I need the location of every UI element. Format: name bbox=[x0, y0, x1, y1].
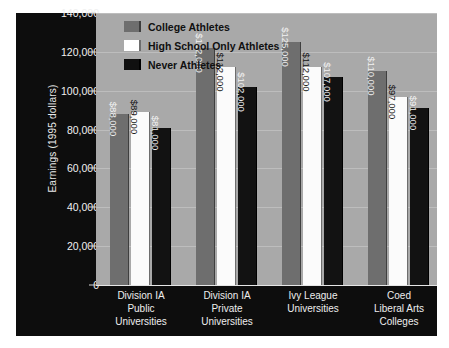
x-axis-category-label: Division IAPrivateUniversities bbox=[177, 289, 277, 328]
y-axis-tick-mark bbox=[89, 51, 96, 52]
y-axis-tick-mark bbox=[89, 246, 96, 247]
x-axis-category-line: Coed bbox=[349, 289, 449, 302]
x-axis-category-line: Universities bbox=[91, 315, 191, 328]
bar[interactable]: $125,000 bbox=[282, 42, 301, 285]
bar-value-label: $102,000 bbox=[236, 72, 247, 112]
legend-swatch-icon bbox=[124, 40, 141, 51]
x-axis-category-line: Ivy League bbox=[263, 289, 363, 302]
legend-label: High School Only Athletes bbox=[148, 40, 279, 52]
bar-value-label: $110,000 bbox=[366, 57, 377, 96]
x-axis-category-line: Universities bbox=[177, 315, 277, 328]
x-axis-category-line: Colleges bbox=[349, 315, 449, 328]
y-axis-title: Earnings (1995 dollars) bbox=[47, 59, 58, 219]
x-axis-category-line: Public bbox=[91, 302, 191, 315]
bar[interactable]: $97,000 bbox=[389, 97, 408, 285]
bar-group: $125,000$112,000$107,000 bbox=[282, 13, 344, 285]
bar[interactable]: $81,000 bbox=[152, 128, 171, 285]
y-axis-tick-mark bbox=[89, 168, 96, 169]
chart-panel: Earnings (1995 dollars) 140,000120,00010… bbox=[16, 13, 437, 336]
y-axis-tick-mark bbox=[89, 90, 96, 91]
bar-value-label: $112,000 bbox=[301, 53, 312, 92]
bar-value-label: $81,000 bbox=[150, 115, 161, 149]
x-axis-category-label: Ivy LeagueUniversities bbox=[263, 289, 363, 315]
y-axis-tick-mark bbox=[89, 13, 96, 14]
x-axis-baseline bbox=[96, 285, 437, 286]
legend-swatch-icon bbox=[124, 59, 141, 70]
bar[interactable]: $102,000 bbox=[238, 87, 257, 285]
bar[interactable]: $112,000 bbox=[217, 67, 236, 285]
x-axis-category-line: Liberal Arts bbox=[349, 302, 449, 315]
bar-value-label: $97,000 bbox=[387, 84, 398, 118]
y-axis-tick-mark bbox=[89, 285, 96, 286]
bar-value-label: $125,000 bbox=[280, 27, 291, 67]
legend-item[interactable]: Never Athletes bbox=[124, 55, 279, 74]
legend-item[interactable]: High School Only Athletes bbox=[124, 36, 279, 55]
bar[interactable]: $112,000 bbox=[303, 67, 322, 285]
plot-area: $88,000$89,000$81,000$122,000$112,000$10… bbox=[96, 13, 437, 285]
legend-swatch-icon bbox=[124, 21, 141, 32]
bar[interactable]: $107,000 bbox=[324, 77, 343, 285]
x-axis-category-label: Division IAPublicUniversities bbox=[91, 289, 191, 328]
x-axis-category-line: Division IA bbox=[177, 289, 277, 302]
bar-value-label: $88,000 bbox=[108, 102, 119, 136]
y-axis-tick-mark bbox=[89, 129, 96, 130]
chart-legend: College AthletesHigh School Only Athlete… bbox=[124, 17, 279, 74]
bar[interactable]: $91,000 bbox=[410, 108, 429, 285]
x-axis-category-line: Division IA bbox=[91, 289, 191, 302]
legend-label: College Athletes bbox=[148, 21, 230, 33]
bar-value-label: $91,000 bbox=[408, 96, 419, 130]
bar[interactable]: $89,000 bbox=[131, 112, 150, 285]
bar[interactable]: $88,000 bbox=[110, 114, 129, 285]
x-axis-labels: Division IAPublicUniversitiesDivision IA… bbox=[96, 287, 437, 335]
bar-value-label: $89,000 bbox=[129, 100, 140, 134]
x-axis-category-label: CoedLiberal ArtsColleges bbox=[349, 289, 449, 328]
bar-value-label: $107,000 bbox=[322, 62, 333, 102]
x-axis-category-line: Universities bbox=[263, 302, 363, 315]
x-axis-category-line: Private bbox=[177, 302, 277, 315]
legend-label: Never Athletes bbox=[148, 59, 221, 71]
y-axis-tick-mark bbox=[89, 207, 96, 208]
bar-group: $110,000$97,000$91,000 bbox=[368, 13, 430, 285]
bar[interactable]: $110,000 bbox=[368, 71, 387, 285]
legend-item[interactable]: College Athletes bbox=[124, 17, 279, 36]
bar[interactable]: $122,000 bbox=[196, 48, 215, 285]
